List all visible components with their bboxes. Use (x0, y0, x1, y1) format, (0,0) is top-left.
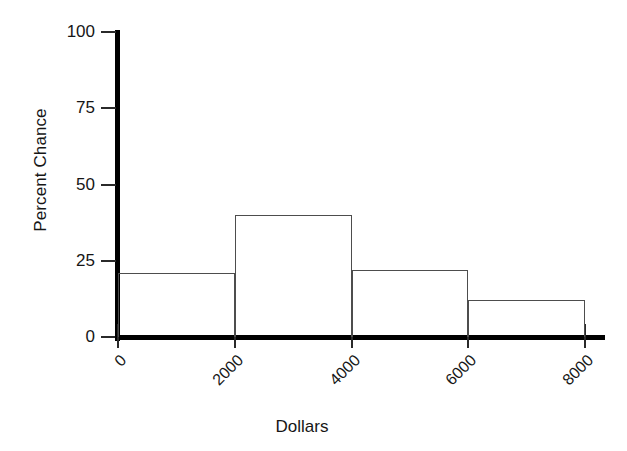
x-tick-label: 2000 (150, 352, 246, 448)
y-tick-label: 75 (35, 99, 95, 116)
x-tick-label: 8000 (500, 352, 596, 448)
histogram-chart: Percent Chance 1007550250 02000400060008… (0, 0, 627, 451)
bar (235, 215, 352, 337)
y-tick-label-wrap: 75 (33, 99, 95, 116)
bar (468, 300, 585, 337)
y-tick-mark (101, 107, 116, 109)
y-tick-label-wrap: 50 (33, 176, 95, 193)
bar (118, 273, 235, 337)
y-tick-label-wrap: 100 (33, 23, 95, 40)
y-tick-label-wrap: 0 (33, 328, 95, 345)
y-tick-label: 50 (35, 176, 95, 193)
y-tick-mark (101, 336, 116, 338)
x-axis-title: Dollars (237, 417, 367, 437)
y-axis-title: Percent Chance (28, 55, 54, 285)
y-tick-label-wrap: 25 (33, 252, 95, 269)
y-tick-label: 100 (35, 23, 95, 40)
y-tick-label: 25 (35, 252, 95, 269)
x-tick-label: 0 (33, 352, 129, 448)
y-tick-mark (101, 184, 116, 186)
bar (352, 270, 469, 337)
y-tick-mark (101, 260, 116, 262)
y-tick-label: 0 (35, 328, 95, 345)
y-tick-mark (101, 31, 116, 33)
x-tick-label: 6000 (383, 352, 479, 448)
